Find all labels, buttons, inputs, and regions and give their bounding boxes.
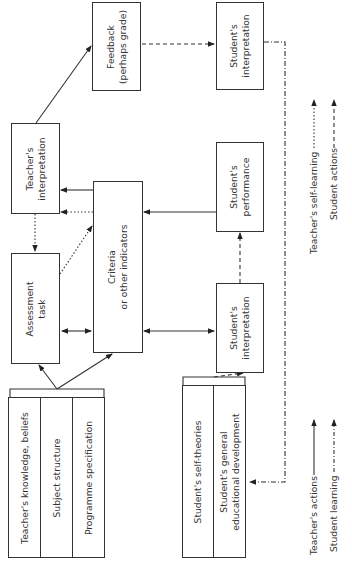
- student-input-general-development: Student's generaleducational development: [214, 386, 245, 557]
- student-input-self-theories: Student's self-theories: [183, 386, 214, 557]
- teacher-input-subject-structure-label: Subject structure: [51, 438, 63, 517]
- criteria-label-2: or other indicators: [118, 225, 130, 310]
- feedback-sublabel: (perhaps grade): [117, 10, 129, 84]
- teacher-interpretation-label-1: Teacher's: [24, 137, 36, 200]
- teacher-inputs-stack: Teacher's knowledge, beliefs Subject str…: [8, 397, 105, 558]
- student-input-general-development-label-2: educational development: [230, 413, 242, 530]
- teacher-input-knowledge-label: Teacher's knowledge, beliefs: [19, 412, 31, 544]
- feedback-label: Feedback: [105, 10, 117, 84]
- legend-student-learning: Student learning: [328, 475, 339, 552]
- assessment-task-label-2: task: [36, 281, 48, 336]
- feedback-box: Feedback(perhaps grade): [92, 2, 141, 91]
- student-interpretation-mid-label-1: Student's: [228, 296, 240, 359]
- student-input-general-development-label-1: Student's general: [218, 413, 230, 530]
- legend-teacher-self-learning: Teacher's self-learning: [308, 152, 319, 254]
- student-interpretation-mid-box: Student'sinterpretation: [216, 283, 264, 373]
- student-interpretation-top-box: Student'sinterpretation: [216, 2, 264, 90]
- teacher-interpretation-label-2: interpretation: [36, 137, 48, 200]
- student-interpretation-mid-label-2: interpretation: [240, 296, 252, 359]
- criteria-box: Criteriaor other indicators: [93, 181, 143, 353]
- student-performance-box: Student'sperformance: [216, 142, 264, 232]
- student-performance-label-1: Student's: [228, 158, 240, 217]
- teacher-interpretation-box: Teacher'sinterpretation: [11, 123, 60, 214]
- teacher-input-knowledge: Teacher's knowledge, beliefs: [9, 398, 41, 557]
- assessment-task-box: Assessmenttask: [11, 253, 60, 364]
- student-performance-label-2: performance: [240, 158, 252, 217]
- criteria-label-1: Criteria: [106, 225, 118, 310]
- legend-teacher-actions: Teacher's actions: [308, 476, 319, 555]
- student-interpretation-top-label-1: Student's: [228, 14, 240, 77]
- legend-student-actions: Student actions: [328, 148, 339, 220]
- teacher-input-subject-structure: Subject structure: [41, 398, 73, 557]
- student-inputs-stack: Student's self-theories Student's genera…: [182, 385, 246, 558]
- teacher-input-programme-spec: Programme specification: [73, 398, 104, 557]
- assessment-task-label-1: Assessment: [24, 281, 36, 336]
- teacher-input-programme-spec-label: Programme specification: [83, 420, 95, 534]
- student-interpretation-top-label-2: interpretation: [240, 14, 252, 77]
- student-input-self-theories-label: Student's self-theories: [192, 420, 204, 523]
